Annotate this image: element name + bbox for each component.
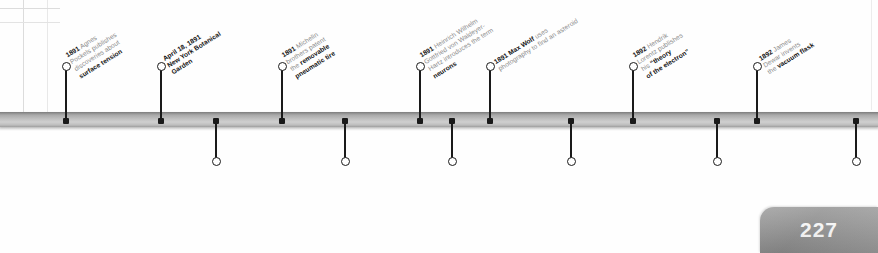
timeline-event-label: 1891 Michelinbrothers patentthe removabl… <box>280 28 336 80</box>
timeline-stem <box>344 121 346 161</box>
timeline-ring-icon <box>62 62 71 71</box>
timeline-stem <box>570 121 572 161</box>
timeline-stem <box>65 67 67 119</box>
timeline-stem <box>451 121 453 161</box>
timeline-ring-icon <box>212 157 221 166</box>
timeline-ring-icon <box>629 62 638 71</box>
timeline-stem <box>756 67 758 119</box>
timeline-event-label: 1891 Max Wolf usesphotography to find an… <box>493 10 580 73</box>
timeline-ring-icon <box>416 62 425 71</box>
timeline-stem <box>632 67 634 119</box>
timeline-page: 1891 AgnesPockels publishesdiscoveries a… <box>0 0 878 253</box>
label-line: 1891 Max Wolf uses <box>493 10 576 66</box>
page-guide-line <box>871 0 872 110</box>
timeline-stem <box>489 67 491 119</box>
timeline-axis <box>0 112 878 127</box>
timeline-stem <box>160 67 162 119</box>
timeline-ring-icon <box>567 157 576 166</box>
timeline-stem <box>855 121 857 161</box>
page-guide-line <box>47 0 48 115</box>
timeline-stem <box>215 121 217 161</box>
timeline-stem <box>281 67 283 119</box>
timeline-stem <box>419 67 421 119</box>
timeline-ring-icon <box>341 157 350 166</box>
timeline-event-label: 1892 HendrikLorentz publisheshis “theory… <box>631 24 693 80</box>
page-guide-line <box>23 0 24 115</box>
timeline-stem <box>716 121 718 161</box>
timeline-ring-icon <box>753 62 762 71</box>
page-guide-line <box>0 8 60 9</box>
timeline-ring-icon <box>278 62 287 71</box>
label-line: photography to find an asteroid <box>497 17 580 73</box>
timeline-event-label: April 18, 1891New York BotanicalGarden <box>161 23 227 77</box>
timeline-event-label: 1891 AgnesPockels publishesdiscoveries a… <box>64 24 127 80</box>
timeline-ring-icon <box>852 157 861 166</box>
timeline-axis-shadow <box>0 127 878 131</box>
timeline-event-label: 1892 JamesDewar inventsthe vacuum flask <box>757 27 815 76</box>
timeline-ring-icon <box>448 157 457 166</box>
timeline-ring-icon <box>713 157 722 166</box>
timeline-ring-icon <box>157 62 166 71</box>
page-number: 227 <box>760 207 878 253</box>
page-guide-line <box>0 22 60 23</box>
timeline-ring-icon <box>486 62 495 71</box>
